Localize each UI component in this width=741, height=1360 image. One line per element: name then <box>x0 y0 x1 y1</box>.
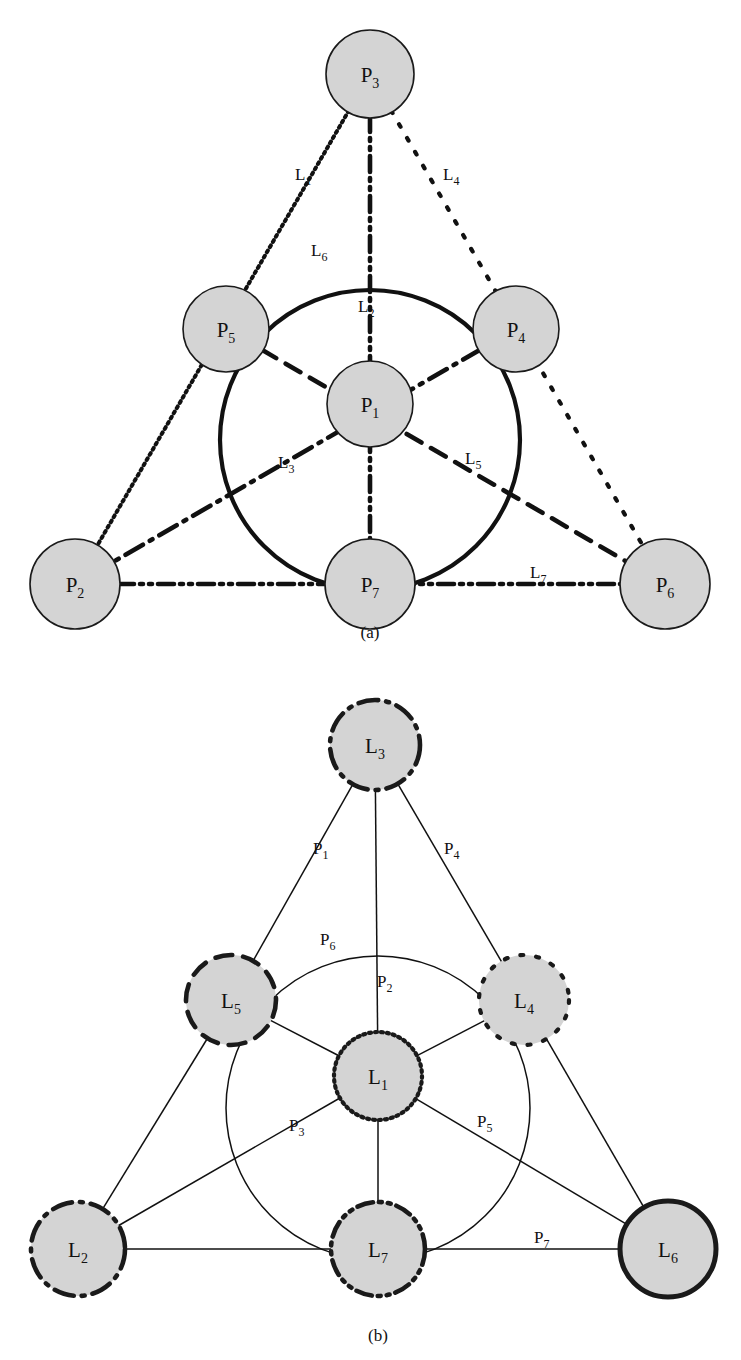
edge-label-p5: P5 <box>477 1112 492 1135</box>
node-l7: L7 <box>331 1202 425 1296</box>
edge-label-l1: L1 <box>295 165 311 188</box>
node-l5: L5 <box>186 955 276 1045</box>
edge-p1 <box>253 783 354 961</box>
edge-label-sub: 2 <box>386 981 392 995</box>
panel-a: P1P2P3P4P5P6P7L1L2L3L4L5L6L7 (a) <box>0 0 741 660</box>
node-label-sub: 1 <box>372 406 379 421</box>
edge-p3 <box>118 1097 341 1226</box>
edge-l4-l1 <box>416 1020 485 1056</box>
edge-l3 <box>112 350 480 563</box>
edge-l5 <box>261 350 627 563</box>
panel-a-caption-canvas: (a) <box>0 612 741 652</box>
figure-page: P1P2P3P4P5P6P7L1L2L3L4L5L6L7 (a) L1L2L3L… <box>0 0 741 1360</box>
node-label-sub: 2 <box>81 1251 88 1266</box>
edge-label-l6: L6 <box>311 241 327 264</box>
panel-b: L1L2L3L4L5L6L7P1P2P3P4P5P6P7 (b) <box>0 660 741 1360</box>
node-label-sub: 1 <box>381 1078 388 1093</box>
edge-label-p4: P4 <box>444 839 459 862</box>
edge-label-sub: 1 <box>305 174 311 188</box>
node-p3: P3 <box>326 30 414 118</box>
edge-label-sub: 7 <box>540 572 546 586</box>
node-l4: L4 <box>479 955 569 1045</box>
edge-l5-l1 <box>270 1020 340 1056</box>
edge-label-p6: P6 <box>320 930 335 953</box>
node-label-sub: 7 <box>381 1251 388 1266</box>
node-label-sub: 3 <box>372 76 379 91</box>
edge-label-sub: 3 <box>298 1125 304 1139</box>
panel-a-caption: (a) <box>361 623 380 642</box>
edge-label-sub: 6 <box>321 250 327 264</box>
edge-p5 <box>415 1098 628 1225</box>
node-label-sub: 6 <box>671 1251 678 1266</box>
node-label-sub: 5 <box>228 331 235 346</box>
edge-label-sub: 5 <box>486 1121 492 1135</box>
edge-label-p1: P1 <box>313 839 328 862</box>
node-p4: P4 <box>473 286 559 372</box>
edge-label-sub: 4 <box>453 174 459 188</box>
node-l6: L6 <box>620 1201 716 1297</box>
panel-a-canvas: P1P2P3P4P5P6P7L1L2L3L4L5L6L7 <box>0 0 741 660</box>
node-label-sub: 4 <box>527 1002 534 1017</box>
edge-label-l4: L4 <box>443 165 459 188</box>
node-label-sub: 4 <box>518 331 525 346</box>
edge-p4 <box>397 783 502 962</box>
node-label-sub: 6 <box>667 586 674 601</box>
node-l1: L1 <box>334 1032 422 1120</box>
edge-label-sub: 4 <box>453 848 459 862</box>
edge-l4-l6 <box>546 1038 644 1208</box>
node-l3: L3 <box>330 700 420 790</box>
panel-b-canvas: L1L2L3L4L5L6L7P1P2P3P4P5P6P7 <box>0 660 741 1360</box>
node-p5: P5 <box>183 286 269 372</box>
node-label-sub: 5 <box>234 1002 241 1017</box>
node-l2: L2 <box>31 1202 125 1296</box>
edge-label-sub: 6 <box>329 939 335 953</box>
edge-label-p7: P7 <box>534 1228 549 1251</box>
node-label-sub: 7 <box>372 586 379 601</box>
edge-label-sub: 5 <box>475 458 481 472</box>
node-label-sub: 2 <box>77 586 84 601</box>
panel-b-caption: (b) <box>368 1326 388 1345</box>
edge-label-sub: 2 <box>368 306 374 320</box>
edge-label-p2: P2 <box>377 972 392 995</box>
panel-b-caption-canvas: (b) <box>0 1315 741 1355</box>
edge-label-sub: 3 <box>288 462 294 476</box>
node-label-sub: 3 <box>378 747 385 762</box>
edge-label-sub: 1 <box>322 848 328 862</box>
edge-label-sub: 7 <box>543 1237 549 1251</box>
node-p1: P1 <box>327 361 413 447</box>
edge-p2 <box>375 789 377 1033</box>
edge-label-l3: L3 <box>278 453 294 476</box>
